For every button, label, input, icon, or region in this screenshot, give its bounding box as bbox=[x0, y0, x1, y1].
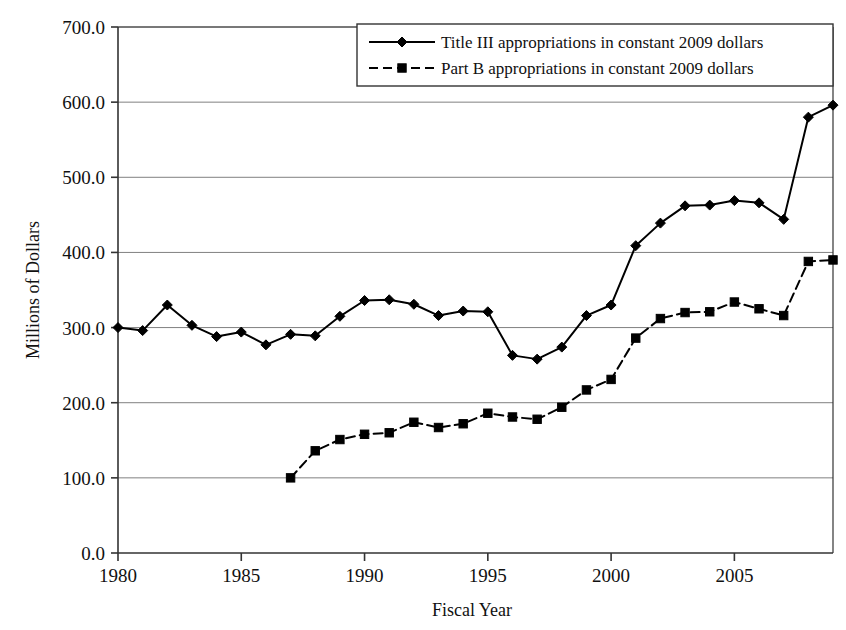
data-point-marker-square bbox=[385, 429, 393, 437]
y-axis-tick-label: 100.0 bbox=[62, 468, 105, 489]
data-point-marker-square bbox=[434, 423, 442, 431]
data-point-marker-square bbox=[508, 413, 516, 421]
data-point-marker-square bbox=[656, 314, 664, 322]
data-point-marker-square bbox=[681, 308, 689, 316]
data-point-marker-square bbox=[286, 474, 294, 482]
line-chart: 0.0100.0200.0300.0400.0500.0600.0700.0 1… bbox=[0, 0, 846, 630]
data-point-marker-square bbox=[336, 435, 344, 443]
y-axis-tick-label: 500.0 bbox=[62, 167, 105, 188]
data-point-marker-square bbox=[730, 298, 738, 306]
x-axis-tick-label: 1995 bbox=[469, 565, 507, 586]
data-point-marker-square bbox=[484, 409, 492, 417]
x-axis-title: Fiscal Year bbox=[432, 600, 512, 620]
x-axis-tick-label: 1980 bbox=[99, 565, 137, 586]
x-axis-tick-label: 1990 bbox=[346, 565, 384, 586]
data-point-marker-square bbox=[804, 257, 812, 265]
data-point-marker-square bbox=[829, 256, 837, 264]
y-axis-tick-label: 200.0 bbox=[62, 393, 105, 414]
chart-legend: Title III appropriations in constant 200… bbox=[357, 24, 833, 86]
data-point-marker-square bbox=[706, 308, 714, 316]
y-axis-tick-label: 700.0 bbox=[62, 17, 105, 38]
data-point-marker-square bbox=[410, 418, 418, 426]
data-point-marker-square bbox=[398, 64, 406, 72]
legend-item-label: Title III appropriations in constant 200… bbox=[441, 33, 763, 52]
data-point-marker-square bbox=[755, 305, 763, 313]
y-axis-tick-label: 300.0 bbox=[62, 318, 105, 339]
data-point-marker-square bbox=[632, 334, 640, 342]
chart-container: 0.0100.0200.0300.0400.0500.0600.0700.0 1… bbox=[0, 0, 846, 630]
y-axis-tick-label: 600.0 bbox=[62, 92, 105, 113]
y-axis-tick-label: 400.0 bbox=[62, 242, 105, 263]
chart-background bbox=[0, 0, 846, 630]
x-axis-tick-label: 1985 bbox=[222, 565, 260, 586]
data-point-marker-square bbox=[360, 430, 368, 438]
data-point-marker-square bbox=[582, 386, 590, 394]
data-point-marker-square bbox=[779, 311, 787, 319]
data-point-marker-square bbox=[533, 415, 541, 423]
legend-item-label: Part B appropriations in constant 2009 d… bbox=[441, 59, 754, 78]
x-axis-tick-label: 2000 bbox=[592, 565, 630, 586]
x-axis-tick-label: 2005 bbox=[715, 565, 753, 586]
data-point-marker-square bbox=[558, 403, 566, 411]
data-point-marker-square bbox=[311, 447, 319, 455]
data-point-marker-square bbox=[607, 375, 615, 383]
y-axis-tick-label: 0.0 bbox=[81, 543, 105, 564]
y-axis-title: Millions of Dollars bbox=[23, 221, 43, 359]
data-point-marker-square bbox=[459, 420, 467, 428]
